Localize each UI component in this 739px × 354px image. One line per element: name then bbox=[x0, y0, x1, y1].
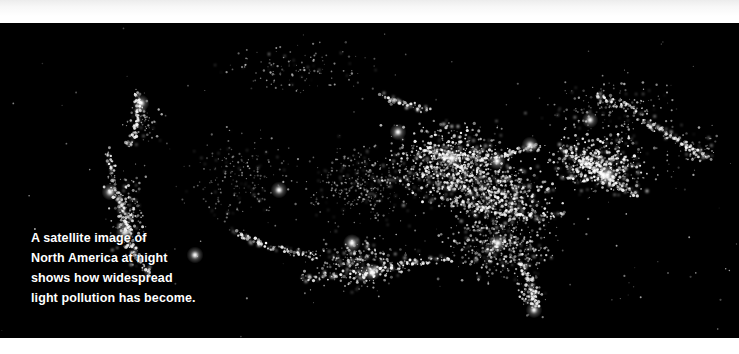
night-lights-figure: A satellite image of North America at ni… bbox=[0, 0, 739, 354]
caption-line-1: A satellite image of bbox=[31, 228, 241, 248]
photo-caption: A satellite image of North America at ni… bbox=[31, 228, 241, 308]
caption-line-4: light pollution has become. bbox=[31, 288, 241, 308]
bottom-margin-band bbox=[0, 338, 739, 354]
caption-line-3: shows how widespread bbox=[31, 268, 241, 288]
satellite-photo: A satellite image of North America at ni… bbox=[0, 23, 739, 338]
top-margin-band bbox=[0, 0, 739, 23]
caption-line-2: North America at night bbox=[31, 248, 241, 268]
